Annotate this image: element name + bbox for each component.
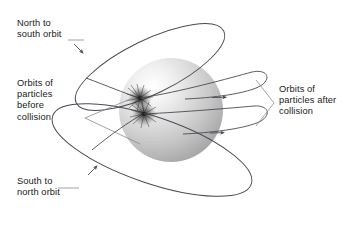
label-orbits-before-collision: Orbits of particles before collision — [17, 78, 53, 123]
south-to-north-arrow — [88, 166, 97, 175]
label-north-to-south-orbit: North to south orbit — [17, 18, 62, 40]
label-orbits-after-collision: Orbits of particles after collision — [279, 84, 336, 118]
orbit-collision-diagram: North to south orbit Orbits of particles… — [0, 0, 348, 229]
north-to-south-arrow — [74, 44, 83, 53]
label-south-to-north-orbit: South to north orbit — [17, 176, 60, 198]
